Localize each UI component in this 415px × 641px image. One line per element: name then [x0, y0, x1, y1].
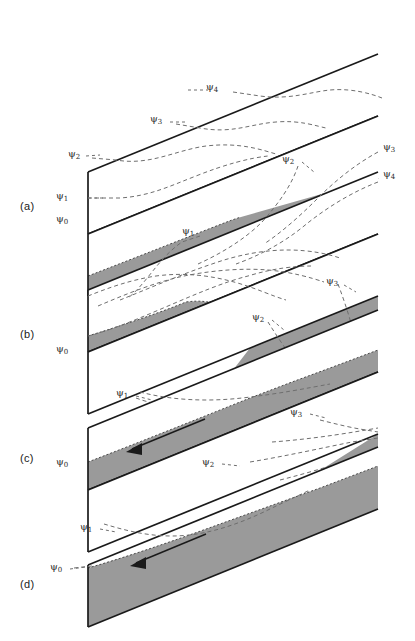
psi-symbol: ψ: [290, 406, 298, 417]
psi-subscript: 2: [76, 153, 80, 161]
panel-label-b: (b): [20, 328, 34, 340]
psi-subscript: 0: [64, 218, 68, 226]
psi-label-a-2: ψ2: [68, 148, 80, 159]
psi-subscript: 2: [210, 461, 214, 469]
diagram-svg: [0, 0, 415, 641]
psi-subscript: 3: [334, 280, 338, 288]
leader-psi0-d: [70, 567, 86, 569]
psi-symbol: ψ: [206, 81, 214, 92]
psi-symbol: ψ: [56, 456, 64, 467]
psi-subscript: 3: [158, 118, 162, 126]
psi-label-b-1: ψ1: [182, 225, 194, 236]
psi-subscript: 3: [391, 146, 395, 154]
psi-symbol: ψ: [56, 343, 64, 354]
psi-label-c-2: ψ2: [202, 456, 214, 467]
psi-symbol: ψ: [383, 141, 391, 152]
psi-label-b-3b: ψ3: [326, 275, 338, 286]
psi-subscript: 0: [58, 566, 62, 574]
psi-label-a-3: ψ3: [150, 113, 162, 124]
psi-symbol: ψ: [282, 153, 290, 164]
psi-subscript: 1: [64, 195, 68, 203]
panel-label-c: (c): [20, 452, 34, 464]
psi-label-c-0: ψ0: [56, 456, 68, 467]
psi-label-b-2b: ψ2: [252, 311, 264, 322]
psi-symbol: ψ: [383, 168, 391, 179]
psi-symbol: ψ: [116, 387, 124, 398]
psi-subscript: 0: [64, 348, 68, 356]
psi-subscript: 4: [214, 86, 218, 94]
psi-label-a-0: ψ0: [56, 213, 68, 224]
psi-subscript: 3: [298, 411, 302, 419]
psi-subscript: 1: [124, 392, 128, 400]
psi-subscript: 1: [88, 526, 92, 534]
psi-label-b-4: ψ4: [383, 168, 395, 179]
panel-label-d: (d): [20, 578, 34, 590]
psi-label-c-3: ψ3: [290, 406, 302, 417]
psi-subscript: 2: [260, 316, 264, 324]
psi-symbol: ψ: [150, 113, 158, 124]
psi-label-b-1b: ψ1: [116, 387, 128, 398]
psi-symbol: ψ: [68, 148, 76, 159]
psi-subscript: 1: [190, 230, 194, 238]
psi-symbol: ψ: [326, 275, 334, 286]
psi-label-d-1: ψ1: [80, 521, 92, 532]
psi-symbol: ψ: [202, 456, 210, 467]
panel-label-a: (a): [20, 200, 34, 212]
psi-symbol: ψ: [50, 561, 58, 572]
psi-symbol: ψ: [182, 225, 190, 236]
psi-label-b-2: ψ2: [282, 153, 294, 164]
psi-label-b-3: ψ3: [383, 141, 395, 152]
psi-subscript: 2: [290, 158, 294, 166]
psi-symbol: ψ: [56, 213, 64, 224]
psi-label-a-1: ψ1: [56, 190, 68, 201]
psi-symbol: ψ: [80, 521, 88, 532]
psi-subscript: 4: [391, 173, 395, 181]
psi-label-d-0: ψ0: [50, 561, 62, 572]
psi-label-b-0: ψ0: [56, 343, 68, 354]
psi-symbol: ψ: [56, 190, 64, 201]
psi-subscript: 0: [64, 461, 68, 469]
figure-canvas: (a) (b) (c) (d) ψ4 ψ3 ψ2 ψ1 ψ0 ψ2 ψ3 ψ4 …: [0, 0, 415, 641]
psi-symbol: ψ: [252, 311, 260, 322]
leader-psi2-a: [86, 155, 100, 156]
psi-label-a-4: ψ4: [206, 81, 218, 92]
